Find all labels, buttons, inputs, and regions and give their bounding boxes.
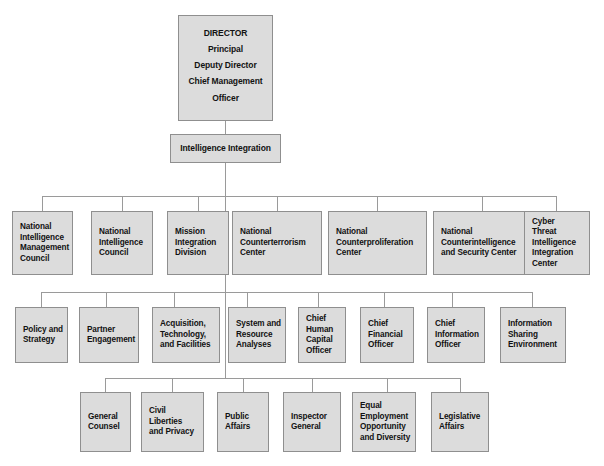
node-intelligence-integration-label: Intelligence Integration — [171, 143, 280, 154]
node-label: Equal Employment Opportunity and Diversi… — [353, 401, 415, 443]
connector-drop-row4-3 — [243, 378, 244, 392]
node-civil-liberties-and-privacy[interactable]: Civil Liberties and Privacy — [141, 392, 204, 452]
node-director-label: DIRECTOR Principal Deputy Director Chief… — [179, 25, 272, 106]
node-label: Partner Engagement — [80, 325, 138, 346]
node-label: Public Affairs — [218, 412, 268, 433]
node-acquisition-technology-and-facilities[interactable]: Acquisition, Technology, and Facilities — [152, 307, 220, 363]
connector-drop-row3-8 — [532, 292, 533, 307]
node-label: Legislative Affairs — [432, 412, 488, 433]
node-label: Civil Liberties and Privacy — [142, 406, 203, 438]
connector-drop-row2-7 — [556, 196, 557, 211]
connector-drop-row2-1 — [42, 196, 43, 211]
node-intelligence-integration[interactable]: Intelligence Integration — [170, 134, 281, 163]
connector-bus-row2 — [42, 196, 556, 197]
connector-drop-row4-2 — [172, 378, 173, 392]
node-cyber-threat-intelligence-integration-center[interactable]: Cyber Threat Intelligence Integration Ce… — [524, 211, 590, 275]
connector-bus-row4 — [105, 378, 460, 379]
connector-drop-row4-4 — [312, 378, 313, 392]
node-label: Policy and Strategy — [16, 325, 67, 346]
connector-spine-row3-row4 — [225, 292, 226, 378]
connector-drop-row2-5 — [377, 196, 378, 211]
node-label: Cyber Threat Intelligence Integration Ce… — [525, 217, 589, 270]
node-label: National Counterterrorism Center — [233, 227, 321, 259]
node-label: Acquisition, Technology, and Facilities — [153, 319, 219, 351]
connector-drop-row4-6 — [460, 378, 461, 392]
connector-drop-row3-4 — [247, 292, 248, 307]
node-label: National Intelligence Management Council — [13, 222, 72, 264]
node-label: Chief Information Officer — [428, 319, 484, 351]
node-chief-financial-officer[interactable]: Chief Financial Officer — [360, 307, 414, 363]
connector-drop-row3-1 — [41, 292, 42, 307]
connector-integration-to-row2-bus — [225, 163, 226, 196]
node-national-counterintelligence-and-security-center[interactable]: National Counterintelligence and Securit… — [433, 211, 532, 275]
org-chart: DIRECTOR Principal Deputy Director Chief… — [0, 0, 604, 466]
node-general-counsel[interactable]: General Counsel — [80, 392, 131, 452]
connector-drop-row3-7 — [452, 292, 453, 307]
node-national-intelligence-council[interactable]: National Intelligence Council — [91, 211, 153, 275]
node-information-sharing-environment[interactable]: Information Sharing Environment — [500, 307, 566, 363]
node-legislative-affairs[interactable]: Legislative Affairs — [431, 392, 489, 452]
connector-drop-row3-6 — [384, 292, 385, 307]
connector-drop-row2-2 — [122, 196, 123, 211]
node-equal-employment-opportunity-and-diversity[interactable]: Equal Employment Opportunity and Diversi… — [352, 392, 416, 452]
node-director[interactable]: DIRECTOR Principal Deputy Director Chief… — [178, 15, 273, 121]
node-national-intelligence-management-council[interactable]: National Intelligence Management Council — [12, 211, 73, 275]
node-label: System and Resource Analyses — [229, 319, 285, 351]
node-label: Chief Human Capital Officer — [299, 314, 345, 356]
node-label: National Counterproliferation Center — [329, 227, 426, 259]
node-inspector-general[interactable]: Inspector General — [283, 392, 341, 452]
node-label: General Counsel — [81, 412, 130, 433]
connector-drop-row2-6 — [482, 196, 483, 211]
node-label: National Counterintelligence and Securit… — [434, 227, 531, 259]
connector-drop-row4-1 — [105, 378, 106, 392]
connector-drop-row2-4 — [277, 196, 278, 211]
node-chief-information-officer[interactable]: Chief Information Officer — [427, 307, 485, 363]
node-national-counterproliferation-center[interactable]: National Counterproliferation Center — [328, 211, 427, 275]
connector-director-to-integration — [225, 121, 226, 134]
connector-drop-row2-3 — [198, 196, 199, 211]
node-label: Information Sharing Environment — [501, 319, 565, 351]
connector-drop-row3-2 — [106, 292, 107, 307]
node-label: National Intelligence Council — [92, 227, 152, 259]
node-label: Inspector General — [284, 412, 340, 433]
node-public-affairs[interactable]: Public Affairs — [217, 392, 269, 452]
connector-drop-row4-5 — [387, 378, 388, 392]
node-chief-human-capital-officer[interactable]: Chief Human Capital Officer — [298, 307, 346, 363]
connector-bus-row3 — [41, 292, 532, 293]
connector-drop-row3-3 — [174, 292, 175, 307]
node-mission-integration-division[interactable]: Mission Integration Division — [167, 211, 229, 275]
node-partner-engagement[interactable]: Partner Engagement — [79, 307, 139, 363]
node-system-and-resource-analyses[interactable]: System and Resource Analyses — [228, 307, 286, 363]
node-national-counterterrorism-center[interactable]: National Counterterrorism Center — [232, 211, 322, 275]
node-label: Chief Financial Officer — [361, 319, 413, 351]
node-policy-and-strategy[interactable]: Policy and Strategy — [15, 307, 68, 363]
node-label: Mission Integration Division — [168, 227, 228, 259]
connector-drop-row3-5 — [318, 292, 319, 307]
